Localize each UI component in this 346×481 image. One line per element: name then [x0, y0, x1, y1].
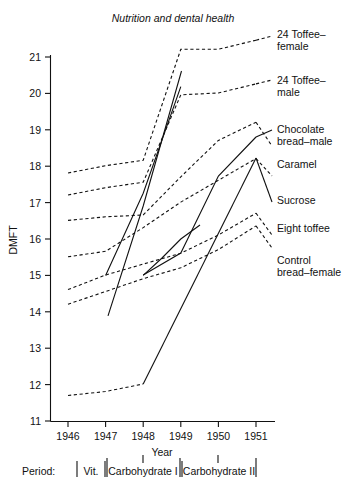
x-tick-1946: 1946: [56, 430, 80, 442]
series-chocolate-tail: [143, 137, 256, 275]
x-tick-1948: 1948: [132, 430, 156, 442]
period-label: Period:: [22, 465, 55, 477]
y-axis-ticks: [45, 57, 51, 421]
y-tick-14: 14: [29, 306, 41, 318]
y-tick-15: 15: [29, 269, 41, 281]
legend-24-toffee-male-l1: 24 Toffee–: [277, 74, 326, 86]
y-tick-21: 21: [29, 51, 41, 63]
legend-24-toffee-female-l1: 24 Toffee–: [277, 28, 326, 40]
legend-sucrose: Sucrose: [277, 194, 316, 206]
y-axis-label: DMFT: [7, 225, 19, 255]
x-tick-1951: 1951: [244, 430, 268, 442]
series-lowest-dashed: [68, 384, 143, 396]
y-tick-18: 18: [29, 160, 41, 172]
series-eight-toffee: [143, 158, 256, 384]
legend-control-bread-female-l2: bread–female: [277, 266, 341, 278]
x-tick-1949: 1949: [169, 430, 193, 442]
period-carb-2: Carbohydrate II: [183, 465, 255, 477]
series-control-bread-female: [68, 213, 256, 289]
x-axis-label: Year: [151, 446, 173, 458]
legend-24-toffee-male-l2: male: [277, 86, 300, 98]
chart-legend: 24 Toffee– female 24 Toffee– male Chocol…: [277, 28, 341, 278]
y-axis-labels: 21 20 19 18 17 16 15 14 13 12 11: [29, 51, 41, 427]
x-axis-labels: 1946 1947 1948 1949 1950 1951: [56, 430, 268, 442]
legend-eight-toffee: Eight toffee: [277, 222, 330, 234]
y-tick-12: 12: [29, 379, 41, 391]
y-tick-17: 17: [29, 197, 41, 209]
x-tick-1950: 1950: [207, 430, 231, 442]
legend-caramel: Caramel: [277, 158, 317, 170]
series-24-toffee-female: [68, 40, 256, 173]
x-tick-1947: 1947: [94, 430, 118, 442]
period-vit: Vit.: [84, 465, 99, 477]
series-eight-toffee-mid: [143, 225, 200, 275]
series-steep-solid-b: [108, 71, 182, 316]
y-tick-16: 16: [29, 233, 41, 245]
x-axis-ticks: [68, 422, 256, 428]
period-names: Vit. Carbohydrate I Carbohydrate II: [84, 465, 256, 477]
legend-control-bread-female-l1: Control: [277, 254, 311, 266]
chart-figure: Nutrition and dental health 21 20 19 18 …: [0, 0, 346, 481]
series-caramel: [68, 122, 256, 220]
y-tick-11: 11: [30, 415, 41, 427]
legend-24-toffee-female-l2: female: [277, 40, 309, 52]
legend-chocolate-bread-male-l2: bread–male: [277, 135, 333, 147]
series-control-bread-lower: [68, 226, 256, 304]
y-tick-13: 13: [29, 342, 41, 354]
chart-title: Nutrition and dental health: [112, 12, 235, 24]
y-tick-19: 19: [29, 124, 41, 136]
period-carb-1: Carbohydrate I: [108, 465, 177, 477]
legend-chocolate-bread-male-l1: Chocolate: [277, 123, 324, 135]
y-tick-20: 20: [29, 87, 41, 99]
series-sucrose: [68, 159, 256, 257]
legend-leader-marks: [256, 36, 272, 248]
